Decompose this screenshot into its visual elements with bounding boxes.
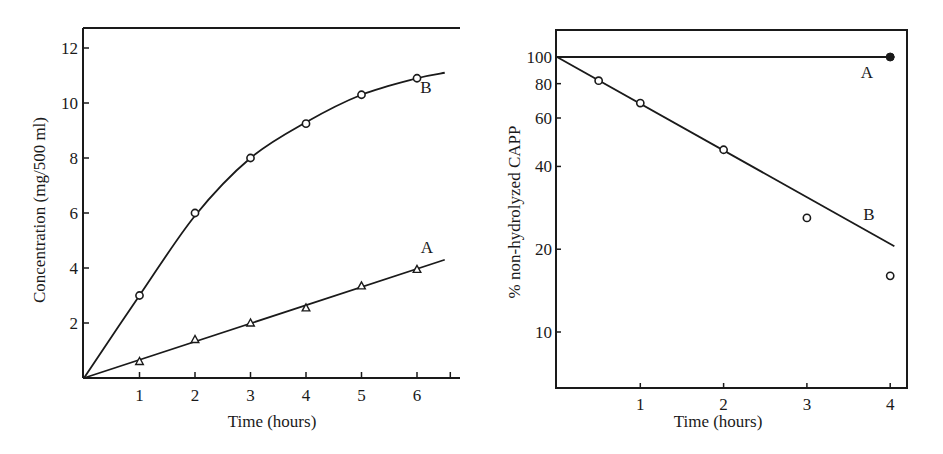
left-ticks: 12345624681012: [61, 39, 450, 405]
right-markers: [595, 53, 894, 279]
right-point-b: [637, 99, 644, 106]
left-y-axis-label: Concentration (mg/500 ml): [30, 117, 49, 303]
left-y-tick-label: 4: [70, 259, 79, 278]
left-chart: 12345624681012 Time (hours) Concentratio…: [30, 28, 460, 431]
right-series-label-a: A: [861, 63, 874, 82]
right-y-tick-label: 60: [535, 109, 552, 128]
right-y-tick-label: 10: [535, 323, 552, 342]
left-point-b: [136, 292, 143, 299]
right-frame: [556, 30, 907, 388]
left-curve-b: [84, 73, 445, 378]
left-y-tick-label: 8: [70, 149, 79, 168]
left-point-a: [191, 336, 199, 343]
right-chart: 12341020406080100 Time (hours) % non-hyd…: [505, 30, 907, 431]
left-x-tick-label: 4: [302, 386, 311, 405]
right-point-b: [803, 214, 810, 221]
right-y-tick-label: 100: [527, 48, 553, 67]
right-y-tick-label: 20: [535, 240, 552, 259]
left-x-tick-label: 6: [413, 386, 422, 405]
right-point-a: [886, 53, 894, 61]
right-point-b: [595, 77, 602, 84]
left-x-tick-label: 3: [246, 386, 255, 405]
right-series-label-b: B: [863, 205, 874, 224]
left-y-tick-label: 12: [61, 39, 78, 58]
right-y-tick-label: 80: [535, 75, 552, 94]
left-point-a: [247, 319, 255, 326]
left-curves: [84, 73, 445, 378]
left-point-a: [358, 282, 366, 289]
right-y-axis-label: % non-hydrolyzed CAPP: [505, 126, 524, 299]
right-y-tick-label: 40: [535, 157, 552, 176]
left-point-a: [413, 265, 421, 272]
left-y-tick-label: 2: [70, 314, 79, 333]
right-point-b: [887, 272, 894, 279]
left-markers: [136, 75, 421, 365]
left-x-tick-label: 5: [357, 386, 366, 405]
left-point-b: [302, 120, 309, 127]
left-y-tick-label: 6: [70, 204, 79, 223]
right-x-tick-label: 3: [803, 395, 812, 414]
right-x-tick-label: 4: [886, 395, 895, 414]
left-point-b: [191, 209, 198, 216]
left-point-b: [247, 154, 254, 161]
left-x-tick-label: 2: [191, 386, 200, 405]
right-point-b: [720, 146, 727, 153]
left-x-tick-label: 1: [135, 386, 144, 405]
left-point-b: [358, 91, 365, 98]
right-x-axis-label: Time (hours): [674, 412, 763, 431]
figure: 12345624681012 Time (hours) Concentratio…: [0, 0, 943, 454]
left-series-label-a: A: [421, 238, 434, 257]
right-ticks: 12341020406080100: [527, 48, 895, 414]
left-y-tick-label: 10: [61, 94, 78, 113]
left-x-axis-label: Time (hours): [228, 412, 317, 431]
right-x-tick-label: 1: [636, 395, 645, 414]
left-series-label-b: B: [420, 78, 431, 97]
